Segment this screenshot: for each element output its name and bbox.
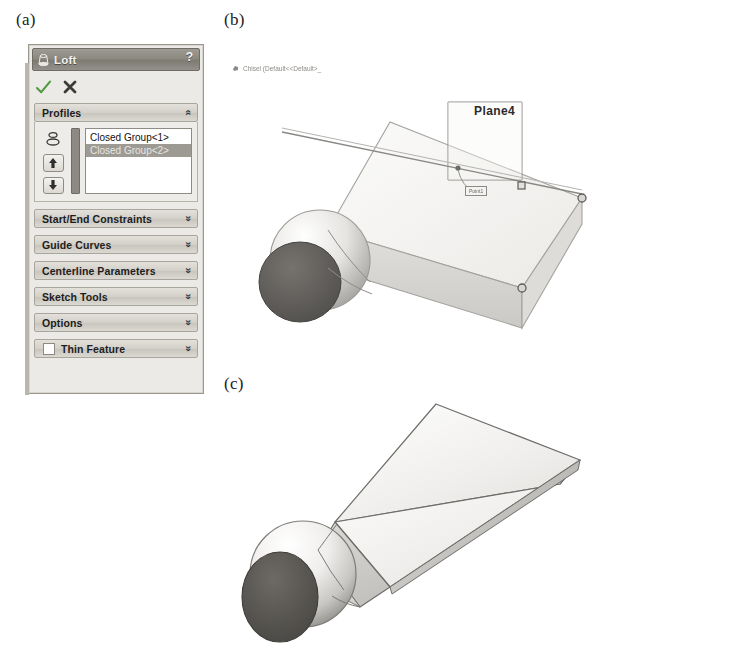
section-header[interactable]: Start/End Constraints — [34, 209, 198, 228]
section-header-thin-feature[interactable]: Thin Feature — [34, 339, 198, 358]
part-icon — [232, 64, 240, 73]
chevron-double-down-icon[interactable] — [185, 315, 191, 330]
section-title-profiles: Profiles — [42, 107, 81, 119]
section-guide-curves: Guide Curves — [34, 235, 198, 254]
chevron-double-down-icon[interactable] — [185, 289, 191, 304]
loft-property-manager: Loft ? Profiles — [28, 44, 204, 394]
section-header-profiles[interactable]: Profiles — [34, 103, 198, 122]
dialog-title-bar: Loft ? — [32, 48, 200, 71]
plane-label: Plane4 — [474, 104, 515, 118]
profiles-toolbar — [40, 128, 66, 194]
feature-tree-label: Chisel (Default<<Default>_ — [232, 64, 321, 73]
chevron-double-down-icon[interactable] — [185, 341, 191, 356]
loft-icon — [37, 53, 50, 67]
panel-b-label: (b) — [224, 10, 245, 30]
section-options: Options — [34, 313, 198, 332]
chevron-double-down-icon[interactable] — [185, 211, 191, 226]
panel-c-label: (c) — [224, 374, 244, 394]
list-item[interactable]: Closed Group<1> — [86, 131, 191, 144]
section-header[interactable]: Sketch Tools — [34, 287, 198, 306]
chevron-double-down-icon[interactable] — [185, 237, 191, 252]
loft-preview-graphic — [222, 42, 742, 372]
section-title: Options — [42, 317, 82, 329]
section-title-thin-feature: Thin Feature — [61, 343, 125, 355]
section-start-end-constraints: Start/End Constraints — [34, 209, 198, 228]
section-header[interactable]: Guide Curves — [34, 235, 198, 254]
section-header[interactable]: Options — [34, 313, 198, 332]
red-x-icon[interactable] — [62, 79, 78, 95]
viewport-loft-preview: Chisel (Default<<Default>_ — [222, 42, 742, 372]
dialog-title: Loft — [54, 54, 77, 66]
feature-tree-text: Chisel (Default<<Default>_ — [243, 65, 321, 72]
green-check-icon[interactable] — [35, 79, 52, 96]
section-sketch-tools: Sketch Tools — [34, 287, 198, 306]
dialog-body: Profiles — [29, 103, 203, 358]
viewport-final-model — [240, 392, 740, 657]
arrow-up-icon[interactable] — [43, 154, 64, 172]
profiles-selection-bar — [71, 128, 80, 194]
thin-feature-checkbox[interactable] — [43, 343, 55, 355]
loft-profiles-icon[interactable] — [43, 129, 63, 149]
section-title: Centerline Parameters — [42, 265, 156, 277]
list-item[interactable]: Closed Group<2> — [86, 144, 191, 157]
dialog-action-row — [35, 75, 203, 99]
section-title: Guide Curves — [42, 239, 111, 251]
point-callout-label: Point1 — [465, 186, 487, 196]
section-title: Sketch Tools — [42, 291, 108, 303]
section-title: Start/End Constraints — [42, 213, 152, 225]
chisel-solid-graphic — [240, 392, 740, 657]
help-icon[interactable]: ? — [186, 50, 193, 64]
section-profiles: Profiles — [34, 103, 198, 202]
panel-left-rail — [25, 63, 29, 395]
profiles-listbox[interactable]: Closed Group<1>Closed Group<2> — [85, 128, 192, 194]
chevron-double-up-icon[interactable] — [185, 105, 191, 120]
collapsed-sections: Start/End ConstraintsGuide CurvesCenterl… — [34, 209, 198, 332]
section-thin-feature: Thin Feature — [34, 339, 198, 358]
arrow-down-icon[interactable] — [43, 177, 64, 195]
panel-a-label: (a) — [16, 10, 36, 30]
section-header[interactable]: Centerline Parameters — [34, 261, 198, 280]
section-centerline-parameters: Centerline Parameters — [34, 261, 198, 280]
profiles-body: Closed Group<1>Closed Group<2> — [34, 122, 198, 202]
chevron-double-down-icon[interactable] — [185, 263, 191, 278]
